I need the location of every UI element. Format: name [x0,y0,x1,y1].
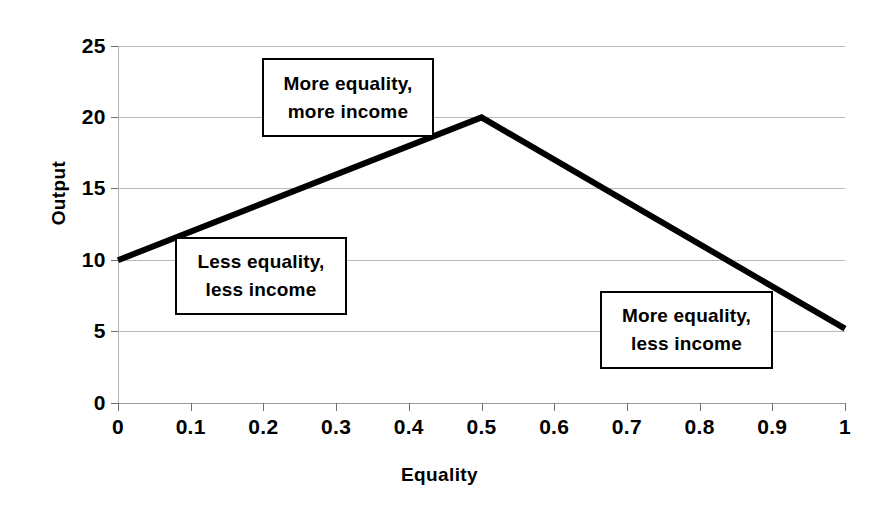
x-tick-0.1 [191,403,192,411]
y-tick-label-5: 5 [60,319,106,343]
y-axis-title: Output [48,148,70,238]
y-tick-20 [111,117,118,118]
annotation-line-1: Less equality, [197,248,324,276]
annotation-more-equality-more-income: More equality, more income [262,58,434,137]
x-tick-0.9 [772,403,773,411]
y-tick-5 [111,331,118,332]
x-tick-label-0.3: 0.3 [306,415,366,439]
gridline-20 [118,117,845,118]
x-tick-1 [845,403,846,411]
x-tick-label-0.6: 0.6 [524,415,584,439]
annotation-line-1: More equality, [283,70,412,98]
x-tick-0.5 [482,403,483,411]
x-tick-label-0.5: 0.5 [452,415,512,439]
x-tick-label-0.1: 0.1 [161,415,221,439]
annotation-less-equality-less-income: Less equality, less income [175,237,347,315]
y-tick-0 [111,403,118,404]
x-axis-title: Equality [0,464,879,486]
x-tick-label-0.7: 0.7 [597,415,657,439]
x-tick-label-0: 0 [88,415,148,439]
x-tick-0.2 [263,403,264,411]
x-tick-0.8 [700,403,701,411]
x-tick-0 [118,403,119,411]
x-tick-label-1: 1 [815,415,875,439]
annotation-line-2: more income [288,98,408,126]
annotation-line-1: More equality, [622,302,751,330]
y-tick-10 [111,260,118,261]
annotation-line-2: less income [631,330,742,358]
x-tick-label-0.2: 0.2 [233,415,293,439]
chart-figure: 25 20 15 10 5 0 0 0.1 0.2 0.3 0.4 0.5 0.… [0,0,879,520]
y-tick-label-20: 20 [60,105,106,129]
annotation-line-2: less income [206,276,317,304]
annotation-more-equality-less-income: More equality, less income [600,291,773,369]
gridline-25 [118,46,845,47]
x-tick-0.4 [409,403,410,411]
y-axis-line [118,46,119,403]
x-tick-0.6 [554,403,555,411]
y-tick-label-0: 0 [60,391,106,415]
y-tick-25 [111,46,118,47]
x-tick-label-0.4: 0.4 [379,415,439,439]
y-tick-label-25: 25 [60,34,106,58]
y-tick-label-10: 10 [60,248,106,272]
x-tick-label-0.9: 0.9 [742,415,802,439]
gridline-15 [118,188,845,189]
x-tick-0.3 [336,403,337,411]
x-tick-0.7 [627,403,628,411]
x-tick-label-0.8: 0.8 [670,415,730,439]
y-tick-15 [111,188,118,189]
